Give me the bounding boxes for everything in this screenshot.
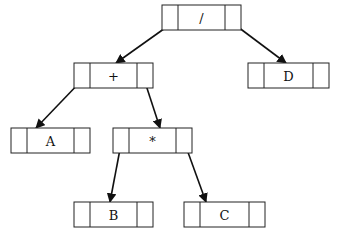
tree-node-mul: * [113, 128, 192, 153]
node-label: + [108, 69, 119, 84]
expression-tree-diagram: /+DA*BC [0, 0, 337, 235]
node-label: C [220, 208, 230, 223]
tree-node-B: B [74, 202, 153, 227]
node-label: * [149, 134, 156, 149]
tree-node-div: / [162, 5, 241, 30]
node-label: A [45, 134, 56, 149]
tree-canvas: /+DA*BC [0, 0, 337, 235]
node-label: B [109, 208, 119, 223]
node-label: / [199, 11, 204, 26]
tree-node-D: D [248, 63, 329, 88]
node-label: D [283, 69, 293, 84]
tree-node-plus: + [74, 63, 153, 88]
tree-node-A: A [11, 128, 90, 153]
tree-node-C: C [184, 202, 265, 227]
